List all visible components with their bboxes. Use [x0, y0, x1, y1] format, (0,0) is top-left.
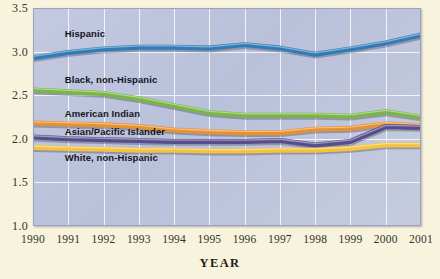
- x-axis-tick-label: 1993: [119, 233, 159, 245]
- x-axis-tick-label: 2001: [401, 233, 440, 245]
- x-axis-tick-label: 1992: [84, 233, 124, 245]
- line-chart: HispanicBlack, non-HispanicAmerican Indi…: [0, 0, 440, 279]
- x-axis-tick-label: 1990: [13, 233, 53, 245]
- x-axis-title: YEAR: [0, 256, 440, 271]
- x-axis-tick-label: 2000: [366, 233, 406, 245]
- x-axis-tick-label: 1994: [154, 233, 194, 245]
- x-axis-tick-label: 1997: [260, 233, 300, 245]
- x-axis-tick-label: 1996: [225, 233, 265, 245]
- x-axis-tick-labels: 1990199119921993199419951996199719981999…: [0, 0, 440, 279]
- x-axis-tick-label: 1995: [189, 233, 229, 245]
- x-axis-tick-label: 1991: [48, 233, 88, 245]
- x-axis-tick-label: 1999: [331, 233, 371, 245]
- x-axis-tick-label: 1998: [295, 233, 335, 245]
